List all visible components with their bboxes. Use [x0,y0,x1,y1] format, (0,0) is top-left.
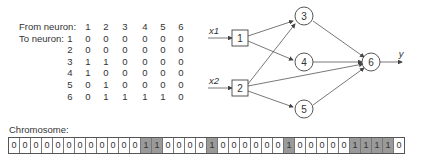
chromosome-gene: 0 [218,138,229,153]
matrix-cell: 0 [101,33,111,45]
chromosome-gene: 0 [196,138,207,153]
col-header: 1 [83,21,93,33]
chromosome-gene: 0 [394,138,404,153]
matrix-cell: 1 [158,91,168,103]
chromosome-gene: 1 [141,138,152,153]
from-neuron-label: From neuron: [19,21,76,33]
matrix-cell: 0 [176,44,186,56]
matrix-cell: 0 [83,91,93,103]
chromosome-gene: 0 [339,138,350,153]
chromosome-gene: 0 [251,138,262,153]
chromosome-gene: 0 [42,138,53,153]
node-label: 5 [301,104,307,115]
chromosome-gene: 0 [64,138,75,153]
matrix-cell: 0 [83,79,93,91]
chromosome-gene: 0 [75,138,86,153]
chromosome-gene: 0 [240,138,251,153]
matrix-cell: 1 [83,67,93,79]
chromosome-gene: 1 [383,138,394,153]
matrix-cell: 0 [176,79,186,91]
node-label: 4 [301,57,307,68]
matrix-cell: 0 [140,33,150,45]
chromosome-gene: 0 [9,138,20,153]
node-label: 2 [237,83,243,94]
matrix-cell: 0 [158,79,168,91]
chromosome-gene: 1 [361,138,372,153]
row-label: 6 [65,91,75,103]
row-label: 1 [65,33,75,45]
chromosome-gene: 0 [97,138,108,153]
matrix-cell: 0 [120,44,130,56]
matrix-cell: 0 [120,79,130,91]
col-header: 6 [176,21,186,33]
row-label: 3 [65,56,75,68]
chromosome-gene: 0 [295,138,306,153]
chromosome-strip: 000000000000110000100000010000011110 [8,137,405,154]
node-label: 6 [368,57,374,68]
chromosome-gene: 0 [53,138,64,153]
input-label-x2: x2 [208,75,220,86]
matrix-cell: 1 [120,91,130,103]
chromosome-gene: 1 [284,138,295,153]
matrix-cell: 0 [101,67,111,79]
row-label: 5 [65,79,75,91]
matrix-cell: 0 [176,33,186,45]
matrix-cell: 0 [120,33,130,45]
chromosome-gene: 0 [306,138,317,153]
col-header: 2 [101,21,111,33]
chromosome-gene: 0 [262,138,273,153]
chromosome-label: Chromosome: [9,124,69,135]
to-neuron-label: To neuron: [19,33,64,45]
col-header: 5 [158,21,168,33]
matrix-cell: 1 [140,91,150,103]
chromosome-gene: 0 [31,138,42,153]
chromosome-gene: 0 [185,138,196,153]
chromosome-gene: 1 [152,138,163,153]
chromosome-gene: 0 [130,138,141,153]
matrix-cell: 0 [140,56,150,68]
network-diagram: 1 2 3 4 5 6 x1 x2 y [200,0,423,120]
row-label: 4 [65,67,75,79]
node-label: 3 [301,11,307,22]
output-label-y: y [398,48,405,59]
chromosome-gene: 0 [119,138,130,153]
chromosome-gene: 0 [317,138,328,153]
matrix-cell: 0 [120,67,130,79]
matrix-cell: 0 [176,91,186,103]
matrix-cell: 0 [158,56,168,68]
row-label: 2 [65,44,75,56]
matrix-cell: 0 [120,56,130,68]
chromosome-gene: 1 [207,138,218,153]
matrix-cell: 0 [101,44,111,56]
col-header: 3 [120,21,130,33]
node-label: 1 [237,33,243,44]
chromosome-gene: 0 [229,138,240,153]
input-label-x1: x1 [208,25,219,36]
chromosome-gene: 0 [328,138,339,153]
matrix-cell: 0 [158,33,168,45]
matrix-cell: 0 [158,67,168,79]
matrix-cell: 0 [158,44,168,56]
chromosome-gene: 1 [350,138,361,153]
matrix-cell: 1 [101,56,111,68]
matrix-cell: 1 [101,91,111,103]
chromosome-gene: 0 [20,138,31,153]
matrix-cell: 0 [83,44,93,56]
matrix-cell: 1 [101,79,111,91]
chromosome-gene: 0 [174,138,185,153]
chromosome-gene: 0 [273,138,284,153]
matrix-cell: 0 [140,67,150,79]
matrix-cell: 0 [140,79,150,91]
matrix-cell: 0 [83,33,93,45]
matrix-cell: 0 [176,56,186,68]
chromosome-gene: 0 [86,138,97,153]
chromosome-gene: 0 [108,138,119,153]
chromosome-gene: 0 [163,138,174,153]
matrix-cell: 0 [176,67,186,79]
matrix-cell: 0 [140,44,150,56]
col-header: 4 [140,21,150,33]
matrix-cell: 1 [83,56,93,68]
chromosome-gene: 1 [372,138,383,153]
